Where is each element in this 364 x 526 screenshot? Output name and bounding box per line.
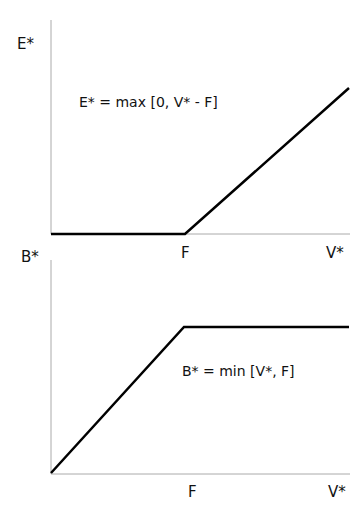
top-y-label: E* — [17, 37, 34, 52]
bottom-equation: B* = min [V*, F] — [182, 364, 295, 378]
top-x-label-f: F — [181, 246, 190, 261]
bottom-x-label-f: F — [188, 485, 197, 500]
debt-payoff-line — [51, 327, 349, 473]
diagram-canvas — [0, 0, 364, 526]
top-equation: E* = max [0, V* - F] — [79, 95, 218, 109]
bottom-x-label-v: V* — [328, 485, 346, 500]
bottom-y-label: B* — [21, 250, 39, 265]
top-x-label-v: V* — [326, 246, 344, 261]
